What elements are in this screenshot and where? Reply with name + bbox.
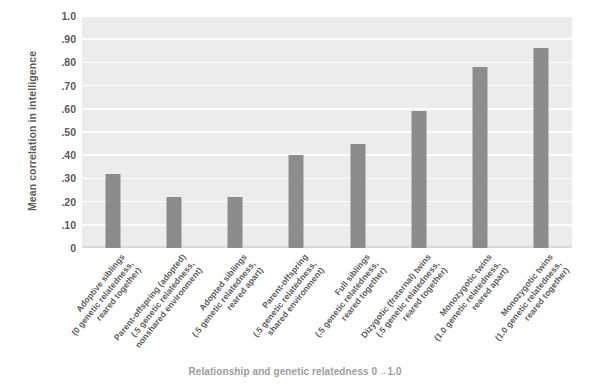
gridline: [82, 15, 572, 17]
bar: [289, 155, 304, 248]
y-axis-tick: 1.0: [40, 10, 76, 22]
bar: [166, 197, 181, 248]
gridline: [82, 38, 572, 40]
y-axis-tick-labels: 1.0.90.80.70.60.50.40.30.20.100: [40, 16, 76, 248]
x-axis-title: Relationship and genetic relatedness 0→1…: [0, 366, 590, 377]
gridline: [82, 201, 572, 203]
y-axis-tick: .60: [40, 103, 76, 115]
y-axis-tick: .40: [40, 149, 76, 161]
y-axis-tick: .70: [40, 80, 76, 92]
gridline: [82, 178, 572, 180]
x-axis-tick-labels: Adoptive siblings(0 genetic relatedness,…: [0, 252, 590, 372]
bar: [105, 174, 120, 248]
y-axis-tick: .30: [40, 172, 76, 184]
gridline: [82, 224, 572, 226]
y-axis-tick: .50: [40, 126, 76, 138]
y-axis-tick: .80: [40, 56, 76, 68]
y-axis-title: Mean correlation in intelligence: [26, 36, 38, 226]
bar: [350, 144, 365, 248]
gridline: [82, 131, 572, 133]
chart-figure: Mean correlation in intelligence 1.0.90.…: [0, 0, 590, 390]
y-axis-tick: .10: [40, 219, 76, 231]
bar: [228, 197, 243, 248]
bar: [473, 67, 488, 248]
gridline: [82, 108, 572, 110]
gridline: [82, 85, 572, 87]
y-axis-tick: .90: [40, 33, 76, 45]
gridline: [82, 154, 572, 156]
y-axis-tick: .20: [40, 196, 76, 208]
bar: [411, 111, 426, 248]
gridline: [82, 62, 572, 64]
plot-area: [82, 16, 572, 248]
bar: [534, 48, 549, 248]
x-axis-baseline: [82, 246, 572, 248]
